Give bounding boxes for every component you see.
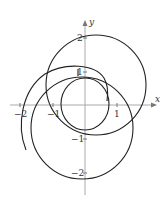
- upper-loop: [46, 35, 146, 135]
- y-tick-label: −2: [71, 168, 84, 178]
- plot-canvas: −2 −1 1 2 1 −1 −2 x y: [0, 0, 166, 204]
- lower-loop: [31, 77, 133, 179]
- plot-figure: −2 −1 1 2 1 −1 −2 x y: [0, 0, 166, 204]
- x-tick-label: 1: [114, 109, 120, 119]
- y-axis-arrow-icon: [83, 20, 88, 26]
- y-axis-label: y: [88, 17, 95, 27]
- x-tick-label: −2: [14, 109, 27, 119]
- y-tick-label: −1: [71, 134, 84, 144]
- x-axis-label: x: [155, 94, 160, 104]
- curve: [21, 35, 146, 179]
